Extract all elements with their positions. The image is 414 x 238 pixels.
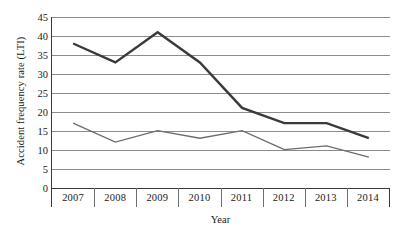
x-tick-label: 2011 [221,188,263,207]
y-tick-label: 10 [18,145,48,156]
y-tick-label: 0 [18,183,48,194]
y-tick-label: 15 [18,126,48,137]
x-axis-title: Year [51,213,390,226]
x-tick-label: 2013 [305,188,347,207]
x-tick-label: 2008 [94,188,136,207]
y-tick-label: 45 [18,12,48,23]
x-tick-label: 2014 [347,188,389,207]
x-axis-category-band: 20072008200920102011201220132014 [51,188,390,207]
plot-area [51,17,390,188]
y-tick-label: 20 [18,107,48,118]
x-tick-label: 2012 [263,188,305,207]
y-tick-label: 25 [18,88,48,99]
line-chart-figure: Accident frequency rate (LTI) 4540353025… [0,0,414,238]
series-lines [52,17,390,187]
x-tick-label: 2007 [52,188,94,207]
x-tick-label: 2010 [178,188,220,207]
series-upper [73,32,369,138]
y-axis-tick-labels: 454035302520151050 [18,10,48,195]
y-tick-label: 5 [18,164,48,175]
x-tick-label: 2009 [136,188,178,207]
y-tick-label: 30 [18,69,48,80]
series-lower [73,123,369,157]
y-tick-label: 40 [18,31,48,42]
y-tick-label: 35 [18,50,48,61]
